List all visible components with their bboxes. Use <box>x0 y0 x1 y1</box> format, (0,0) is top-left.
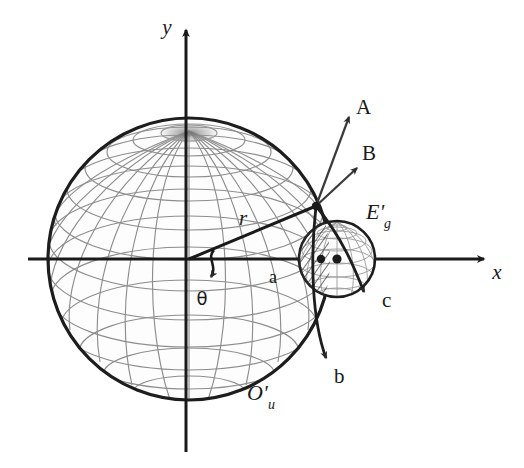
intersection-point-dot <box>312 202 320 210</box>
theta-label: θ <box>196 288 207 309</box>
small-sphere-center-dot <box>332 254 341 263</box>
pole-shading <box>155 121 223 145</box>
vector-a-label: A <box>356 95 372 119</box>
point-a-label: a <box>269 267 277 287</box>
radius-label: r <box>239 206 248 230</box>
vector-c-label: c <box>382 288 391 312</box>
sphere-geometry-figure: y x r θ A B b c a E' g O' u <box>0 0 524 468</box>
small-sphere-label-sub: g <box>384 216 391 231</box>
large-sphere-label-main: O' <box>247 380 268 405</box>
y-axis-label: y <box>160 15 172 39</box>
vector-b-label: b <box>334 364 345 388</box>
diagram-root: y x r θ A B b c a E' g O' u <box>0 0 524 468</box>
vector-b-upper-label: B <box>362 141 376 165</box>
large-sphere-label-sub: u <box>268 397 275 412</box>
point-a-dot <box>317 255 325 263</box>
x-axis-label: x <box>491 260 502 284</box>
small-sphere-label-main: E' <box>365 199 384 224</box>
